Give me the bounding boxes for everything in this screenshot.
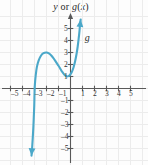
x-tick-label-1: –4 [23,90,31,98]
y-tick-label-9: –5 [61,145,69,153]
y-tick-label-8: –4 [61,133,69,141]
y-tick-label-6: –2 [61,109,69,117]
x-tick-label-7: 3 [105,90,109,98]
y-tick-label-2: 3 [64,49,68,57]
y-tick-label-4: 1 [64,73,68,81]
x-tick-label-2: –3 [35,90,43,98]
coordinate-plane [0,0,148,165]
x-tick-label-3: –2 [47,90,55,98]
x-tick-label-5: 1 [81,90,85,98]
axis-lines [2,13,146,163]
x-tick-label-8: 4 [117,90,121,98]
x-tick-label-9: 5 [129,90,133,98]
y-tick-label-3: 2 [64,61,68,69]
x-tick-label-6: 2 [93,90,97,98]
grid-lines [0,0,148,165]
y-tick-label-0: 5 [64,25,68,33]
y-tick-label-1: 4 [64,37,68,45]
curve-label-g: g [85,33,90,43]
function-curve-g [29,20,84,156]
y-tick-label-7: –3 [61,121,69,129]
graph-figure: y or g(x) –5–4–3–2–112345 54321–1–2–3–4–… [0,0,148,165]
y-tick-label-5: –1 [61,97,69,105]
x-tick-label-0: –5 [11,90,19,98]
